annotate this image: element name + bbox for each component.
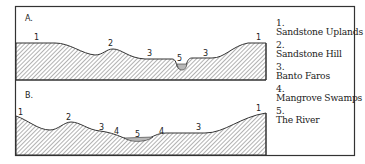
legend-label: Banto Faros — [276, 71, 356, 80]
panel-b-label: B. — [25, 91, 33, 100]
legend-label: The River — [276, 115, 356, 124]
zone-label: 1 — [256, 104, 261, 113]
legend: 1. Sandstone Uplands 2. Sandstone Hill 3… — [276, 18, 356, 128]
zone-label: 3 — [196, 123, 201, 132]
panel-a-terrain — [16, 43, 266, 80]
legend-label: Mangrove Swamps — [276, 93, 356, 102]
zone-label: 3 — [203, 49, 208, 58]
legend-item-mangrove-swamps: 4. Mangrove Swamps — [276, 84, 356, 102]
legend-label: Sandstone Hill — [276, 49, 356, 58]
zone-label: 1 — [18, 108, 23, 117]
zone-label: 1 — [34, 33, 39, 42]
zone-label: 3 — [99, 123, 104, 132]
zone-label: 4 — [114, 127, 119, 136]
legend-item-the-river: 5. The River — [276, 106, 356, 124]
legend-item-sandstone-hill: 2. Sandstone Hill — [276, 40, 356, 58]
legend-item-sandstone-uplands: 1. Sandstone Uplands — [276, 18, 356, 36]
legend-label: Sandstone Uplands — [276, 27, 356, 36]
panel-a: A. 1 2 3 5 3 1 — [16, 14, 266, 80]
panel-a-label: A. — [25, 14, 33, 23]
zone-label: 5 — [135, 130, 140, 139]
zone-label: 3 — [147, 49, 152, 58]
panel-b: B. 1 2 3 4 5 4 3 1 — [16, 91, 266, 155]
panel-b-terrain — [16, 113, 266, 155]
zone-label: 2 — [66, 113, 71, 122]
zone-label: 4 — [159, 127, 164, 136]
legend-item-banto-faros: 3. Banto Faros — [276, 62, 356, 80]
zone-label: 5 — [177, 54, 182, 63]
zone-label: 2 — [108, 39, 113, 48]
zone-label: 1 — [256, 33, 261, 42]
